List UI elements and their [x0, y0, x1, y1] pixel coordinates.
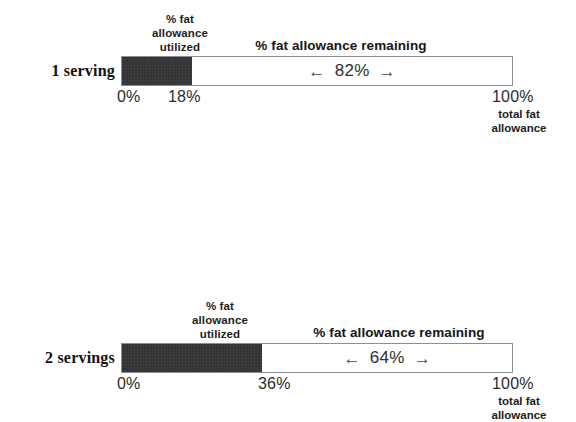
header-remaining-row-1: % fat allowance remaining	[230, 38, 452, 53]
header-remaining-row-2: % fat allowance remaining	[288, 325, 510, 340]
remaining-value-row-1: 82%	[335, 61, 370, 81]
arrow-left-icon-row-1: ←	[308, 63, 325, 80]
axis-tick-end-row-1: 100%	[492, 88, 534, 106]
total-caption-line-1-row-2: total fat	[464, 394, 574, 408]
total-allowance-caption-row-1: total fat allowance	[464, 107, 574, 135]
total-caption-line-2-row-2: allowance	[464, 408, 574, 422]
axis-tick-end-row-2: 100%	[492, 375, 534, 393]
arrow-right-icon-row-2: →	[414, 350, 431, 367]
header-utilized-row-2: % fat allowance utilized	[158, 299, 282, 341]
total-caption-line-2-row-1: allowance	[464, 121, 574, 135]
header-utilized-line-2-row-2: allowance	[158, 313, 282, 327]
series-label-row-1: 1 serving	[0, 62, 115, 80]
axis-tick-start-row-1: 0%	[117, 88, 141, 106]
chart-row-1-serving: 1 serving % fat allowance utilized % fat…	[0, 0, 576, 152]
arrow-left-icon-row-2: ←	[343, 350, 360, 367]
header-utilized-line-3-row-2: utilized	[158, 327, 282, 341]
arrow-right-icon-row-1: →	[379, 63, 396, 80]
header-utilized-line-2: allowance	[128, 26, 232, 40]
header-utilized-line-1: % fat	[128, 12, 232, 26]
total-allowance-caption-row-2: total fat allowance	[464, 394, 574, 422]
bar-track-row-2: ← 64% →	[121, 343, 513, 373]
header-utilized-line-1-row-2: % fat	[158, 299, 282, 313]
axis-tick-mid-row-1: 18%	[168, 88, 201, 106]
header-utilized-row-1: % fat allowance utilized	[128, 12, 232, 54]
remaining-value-row-2: 64%	[370, 348, 405, 368]
axis-tick-mid-row-2: 36%	[258, 375, 291, 393]
bar-remaining-annotation-row-1: ← 82% →	[192, 57, 512, 85]
axis-tick-start-row-2: 0%	[117, 375, 141, 393]
bar-track-row-1: ← 82% →	[121, 56, 513, 86]
bar-fill-utilized-row-2	[122, 344, 262, 372]
series-label-row-2: 2 servings	[0, 349, 115, 367]
bar-remaining-annotation-row-2: ← 64% →	[262, 344, 512, 372]
chart-row-2-servings: 2 servings % fat allowance utilized % fa…	[0, 144, 576, 304]
bar-fill-utilized-row-1	[122, 57, 192, 85]
header-utilized-line-3: utilized	[128, 40, 232, 54]
total-caption-line-1-row-1: total fat	[464, 107, 574, 121]
